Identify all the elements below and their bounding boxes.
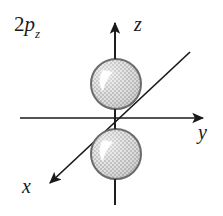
orbital-principal-number: 2	[14, 12, 25, 36]
orbital-type-letter: p	[25, 12, 36, 36]
orbital-subscript: z	[35, 26, 40, 41]
z-axis-label: z	[134, 14, 142, 34]
orbital-diagram: 2pz z y x	[0, 0, 223, 216]
y-axis-label: y	[198, 122, 207, 142]
upper-lobe	[91, 59, 141, 109]
orbital-label: 2pz	[14, 14, 40, 38]
lower-lobe	[91, 129, 141, 179]
x-axis-label: x	[22, 176, 31, 196]
